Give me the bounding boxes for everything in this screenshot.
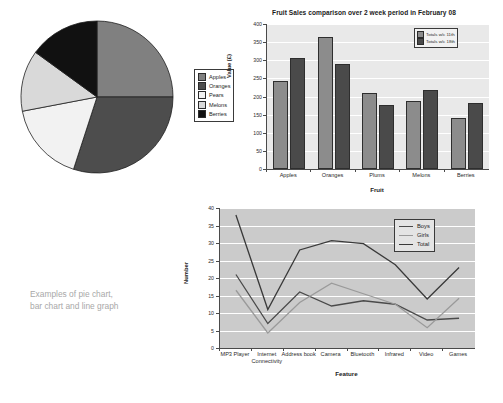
legend-line-girls [399,235,413,237]
bar-plums-series-1 [379,105,394,169]
legend-label-pears: Pears [209,92,224,98]
bar-chart-y-axis-title: Value (£) [226,54,232,78]
bar-y-tick [263,24,266,25]
line-y-tick-label: 10 [194,310,214,316]
line-series-girls [236,283,459,333]
bar-y-tick-label: 250 [240,75,262,81]
line-y-tick [216,261,219,262]
legend-label-boys: Boys [417,223,430,230]
legend-item-melons: Melons [198,100,230,109]
legend-label-girls: Girls [417,232,429,239]
legend-label-totals-18th: Totals w/c 18th [426,39,455,44]
bar-apples-series-0 [273,81,288,169]
line-series-boys [236,275,459,324]
bar-chart-title: Fruit Sales comparison over 2 week perio… [228,9,500,16]
legend-label-totals-11th: Totals w/c 11th [426,32,455,37]
bar-plums-series-0 [362,93,377,169]
legend-item-totals-18th: Totals w/c 18th [417,38,455,46]
line-x-tick-label: Games [436,351,480,358]
bar-y-tick-label: 50 [240,148,262,154]
line-chart-y-axis-title: Number [183,262,189,284]
bar-y-tick [263,42,266,43]
line-chart-plot-area [219,208,475,349]
legend-item-berries: Berries [198,110,230,119]
legend-swatch-melons [198,101,206,109]
line-chart-graphic [220,208,475,348]
line-y-tick-label: 5 [194,328,214,334]
pie-slice-apples [97,21,173,97]
bar-oranges-series-0 [318,37,333,169]
bar-y-tick [263,97,266,98]
bar-y-tick [263,151,266,152]
line-y-tick [216,243,219,244]
bar-oranges-series-1 [335,64,350,169]
legend-swatch-pears [198,91,206,99]
bar-y-tick-label: 200 [240,94,262,100]
bar-y-tick-label: 300 [240,57,262,63]
line-y-tick-label: 15 [194,293,214,299]
bar-y-tick-label: 400 [240,21,262,27]
line-x-tick [442,348,443,351]
bar-x-tick [266,169,267,172]
legend-swatch-totals-18th [417,38,424,45]
line-x-tick [315,348,316,351]
bar-y-tick-label: 150 [240,112,262,118]
legend-item-total: Total [399,240,430,249]
line-x-tick [347,348,348,351]
line-x-tick [251,348,252,351]
legend-line-total [399,244,413,246]
bar-berries-series-0 [451,118,466,169]
line-chart-panel: Number Feature Boys Girls Total 05101520… [182,200,500,400]
legend-swatch-berries [198,110,206,118]
line-x-tick [378,348,379,351]
bar-y-tick [263,133,266,134]
bar-y-tick [263,115,266,116]
legend-item-totals-11th: Totals w/c 11th [417,31,455,39]
bar-y-tick [263,60,266,61]
legend-swatch-oranges [198,82,206,90]
legend-line-boys [399,226,413,228]
legend-swatch-totals-11th [417,31,424,38]
bar-melons-series-1 [423,90,438,169]
line-y-tick [216,226,219,227]
bar-y-tick-label: 100 [240,130,262,136]
line-y-tick [216,296,219,297]
bar-y-tick [263,78,266,79]
line-y-tick-label: 40 [194,205,214,211]
bar-berries-series-1 [468,103,483,169]
legend-label-berries: Berries [209,111,227,117]
bar-x-tick-label: Berries [436,172,496,178]
bar-chart-x-axis-title: Fruit [266,186,488,193]
line-y-tick-label: 35 [194,223,214,229]
line-y-tick [216,331,219,332]
line-chart-x-axis-title: Feature [219,370,474,377]
pie-chart-panel: Apples Oranges Pears Melons Berries [18,8,228,193]
bar-gridline [267,24,489,25]
bar-melons-series-0 [406,101,421,170]
line-x-tick [219,348,220,351]
bar-x-tick [444,169,445,172]
bar-y-tick-label: 350 [240,39,262,45]
bar-chart-legend: Totals w/c 11th Totals w/c 18th [414,28,458,48]
legend-item-oranges: Oranges [198,81,230,90]
legend-label-melons: Melons [209,102,227,108]
bar-chart-panel: Fruit Sales comparison over 2 week perio… [228,4,500,200]
bar-x-tick [310,169,311,172]
line-y-tick [216,208,219,209]
line-x-tick [283,348,284,351]
legend-item-girls: Girls [399,231,430,240]
legend-item-boys: Boys [399,222,430,231]
line-x-tick [410,348,411,351]
line-y-tick-label: 20 [194,275,214,281]
bar-apples-series-1 [290,58,305,169]
line-chart-legend: Boys Girls Total [394,219,435,252]
legend-item-pears: Pears [198,91,230,100]
pie-chart-graphic [18,8,194,193]
bar-x-tick [355,169,356,172]
legend-label-total: Total [417,241,429,248]
legend-swatch-apples [198,73,206,81]
line-y-tick [216,313,219,314]
line-y-tick-label: 25 [194,258,214,264]
line-y-tick-label: 30 [194,240,214,246]
legend-label-apples: Apples [209,74,226,80]
